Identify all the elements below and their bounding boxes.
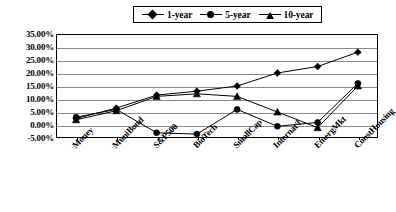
diamond-data-point: [234, 83, 241, 90]
legend-entry-10-year[interactable]: 10-year: [259, 10, 314, 20]
legend-label: 1-year: [167, 10, 192, 20]
y-axis-tick-label: 5.00%: [4, 107, 54, 117]
diamond-data-point: [314, 63, 321, 70]
circle-marker-icon-glyph: [207, 11, 214, 18]
y-axis-tick-label: 20.00%: [4, 68, 54, 78]
legend-label: 10-year: [284, 10, 314, 20]
circle-data-point: [274, 123, 280, 129]
chart-legend: 1-year5-year10-year: [133, 6, 322, 23]
diamond-data-point: [274, 70, 281, 77]
y-axis-tick-label: 15.00%: [4, 81, 54, 91]
legend-entry-1-year[interactable]: 1-year: [142, 10, 192, 20]
y-axis-tick-label: 25.00%: [4, 55, 54, 65]
y-axis-tick-label: 30.00%: [4, 42, 54, 52]
legend-label: 5-year: [225, 10, 250, 20]
y-axis-tick-label: 35.00%: [4, 29, 54, 39]
circle-data-point: [234, 106, 240, 112]
triangle-marker-icon-glyph: [266, 12, 274, 19]
y-axis-tick-label: 0.00%: [4, 120, 54, 130]
legend-entry-5-year[interactable]: 5-year: [200, 10, 250, 20]
triangle-data-point: [274, 108, 281, 115]
diamond-marker-icon-glyph: [148, 9, 158, 19]
y-axis-tick-label: 10.00%: [4, 94, 54, 104]
data-series-layer: [56, 34, 378, 138]
diamond-data-point: [354, 49, 361, 56]
triangle-marker-icon: [259, 10, 281, 20]
circle-marker-icon: [200, 10, 222, 20]
y-axis-tick-label: -5.00%: [4, 133, 54, 143]
diamond-marker-icon: [142, 10, 164, 20]
